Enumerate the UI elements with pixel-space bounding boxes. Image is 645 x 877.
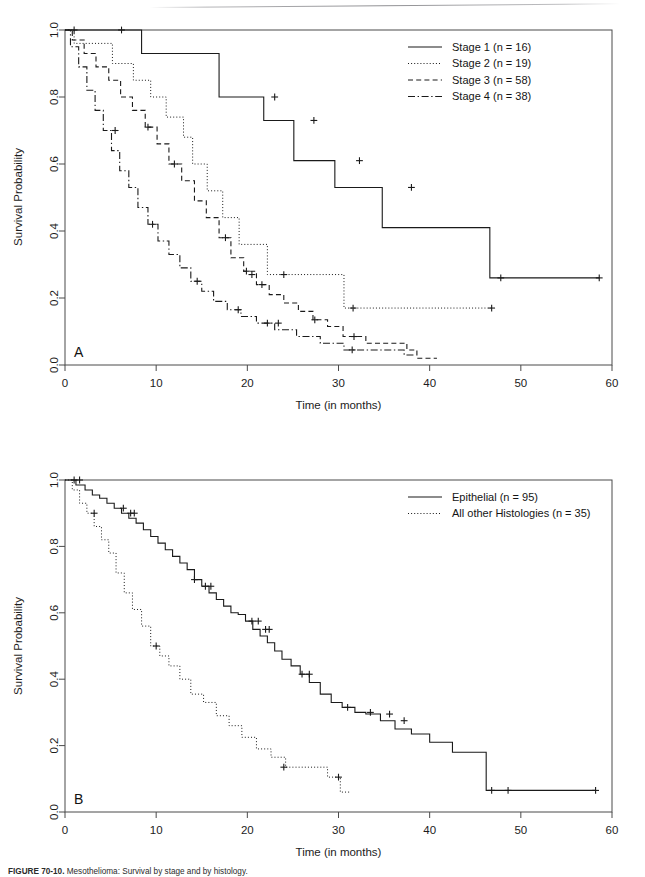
y-tick-label: 1.0 (48, 472, 60, 488)
x-axis-title: Time (in months) (296, 399, 382, 411)
y-tick-label: 0.6 (48, 156, 60, 172)
x-tick-label: 20 (241, 824, 254, 836)
figure-caption-number: FIGURE 70-10. (8, 867, 64, 876)
x-tick-label: 40 (423, 824, 436, 836)
survival-plot-b: 01020304050600.00.20.40.60.81.0Time (in … (0, 440, 645, 860)
legend-label: All other Histologies (n = 35) (452, 507, 590, 519)
y-axis-title: Survival Probability (12, 597, 24, 695)
survival-curve (65, 480, 596, 790)
x-tick-label: 60 (606, 377, 619, 389)
legend-label: Stage 1 (n = 16) (452, 41, 531, 53)
x-axis-title: Time (in months) (296, 846, 382, 858)
y-tick-label: 0.8 (48, 89, 60, 105)
panel-letter: A (74, 344, 84, 360)
y-tick-label: 0.8 (48, 538, 60, 554)
censor-marks (91, 510, 342, 781)
y-tick-label: 0.4 (48, 671, 60, 688)
y-tick-label: 1.0 (48, 22, 60, 38)
y-tick-label: 0.0 (48, 804, 60, 820)
x-tick-label: 50 (514, 377, 527, 389)
x-tick-label: 50 (514, 824, 527, 836)
x-tick-label: 20 (241, 377, 254, 389)
figure-caption-text: Mesothelioma: Survival by stage and by h… (67, 867, 248, 876)
x-tick-label: 10 (150, 824, 163, 836)
x-tick-label: 60 (606, 824, 619, 836)
survival-curve (65, 30, 437, 358)
survival-plot-a: 01020304050600.00.20.40.60.81.0Time (in … (0, 0, 645, 440)
x-tick-label: 0 (62, 824, 68, 836)
x-tick-label: 0 (62, 377, 68, 389)
panel-a: 01020304050600.00.20.40.60.81.0Time (in … (0, 0, 645, 440)
y-axis-title: Survival Probability (12, 148, 24, 246)
legend-label: Stage 4 (n = 38) (452, 90, 531, 102)
survival-curve (65, 30, 415, 355)
x-tick-label: 40 (423, 377, 436, 389)
censor-marks (248, 271, 495, 311)
y-tick-label: 0.6 (48, 605, 60, 621)
figure-caption: FIGURE 70-10. Mesothelioma: Survival by … (8, 867, 638, 877)
censor-marks (145, 124, 358, 340)
y-tick-label: 0.4 (48, 222, 60, 239)
censor-marks (71, 477, 599, 794)
chart-legend: Epithelial (n = 95)All other Histologies… (408, 491, 590, 520)
survival-curve (65, 480, 349, 792)
legend-label: Stage 2 (n = 19) (452, 57, 531, 69)
panel-b: 01020304050600.00.20.40.60.81.0Time (in … (0, 440, 645, 860)
legend-label: Stage 3 (n = 58) (452, 74, 531, 86)
y-tick-label: 0.0 (48, 357, 60, 373)
x-tick-label: 30 (332, 824, 345, 836)
survival-curve (65, 30, 493, 308)
y-tick-label: 0.2 (48, 290, 60, 306)
y-tick-label: 0.2 (48, 738, 60, 754)
x-tick-label: 10 (150, 377, 163, 389)
x-tick-label: 30 (332, 377, 345, 389)
panel-letter: B (74, 791, 83, 807)
legend-label: Epithelial (n = 95) (452, 491, 538, 503)
chart-legend: Stage 1 (n = 16)Stage 2 (n = 19)Stage 3 … (408, 41, 531, 103)
